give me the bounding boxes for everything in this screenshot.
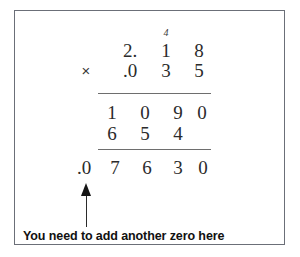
partial-product-1-digit-3: 0 [191,103,213,122]
multiplier-digit-2: 5 [188,61,210,80]
rule-above-partials [98,93,211,94]
partial-product-1-digit-0: 1 [101,103,123,122]
partial-product-2-digit-1: 5 [134,124,156,143]
multiplication-operator: × [77,63,95,78]
carry-digit: 4 [155,28,177,38]
multiplier-digit-1: 3 [155,61,177,80]
rule-above-answer [98,149,211,150]
answer-digit-3: 3 [167,158,189,177]
answer-digit-4: 0 [192,158,214,177]
partial-product-1-digit-1: 0 [134,103,156,122]
figure-root: 4 2. 1 8 × .0 3 5 1 0 9 0 6 5 4 .0 [0,0,300,257]
up-arrow-icon [81,183,91,196]
multiplicand-digit-1: 1 [155,41,177,60]
answer-digit-1: 7 [104,158,126,177]
partial-product-2-digit-0: 6 [101,124,123,143]
multiplicand-digit-0: 2. [119,41,141,60]
partial-product-2-digit-2: 4 [167,124,189,143]
multiplier-digit-0: .0 [119,61,141,80]
answer-digit-0: .0 [73,158,95,177]
answer-digit-2: 6 [136,158,158,177]
partial-product-1-digit-2: 9 [167,103,189,122]
annotation-arrow-shaft [86,195,87,227]
figure-panel: 4 2. 1 8 × .0 3 5 1 0 9 0 6 5 4 .0 [14,10,285,245]
annotation-caption: You need to add another zero here [23,230,224,243]
multiplicand-digit-2: 8 [188,41,210,60]
